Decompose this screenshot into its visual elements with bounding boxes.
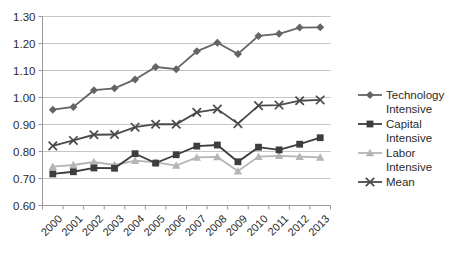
x-tick-label: 2009 xyxy=(224,212,250,238)
data-point-marker-square xyxy=(49,171,56,178)
legend-label-line2: Intensive xyxy=(386,161,432,173)
data-series-group xyxy=(49,23,325,177)
data-point-marker-square xyxy=(70,168,77,175)
y-tick-label: 0.70 xyxy=(13,173,35,185)
x-tick-label: 2005 xyxy=(141,212,167,238)
x-tick-label: 2011 xyxy=(265,212,290,237)
y-tick-label: 0.60 xyxy=(13,200,35,212)
data-point-marker-square xyxy=(193,143,200,150)
legend-label: Capital xyxy=(386,118,422,130)
legend-label: Technology xyxy=(386,89,444,101)
data-point-marker-diamond xyxy=(366,91,374,99)
y-tick-marks-group xyxy=(39,17,43,206)
y-tick-label: 0.90 xyxy=(13,119,35,131)
data-point-marker-diamond xyxy=(213,39,221,47)
data-point-marker-square xyxy=(367,121,374,128)
y-axis-tick-labels: 1.301.201.101.000.900.800.700.60 xyxy=(13,11,35,212)
x-tick-label: 2000 xyxy=(38,212,64,238)
data-point-marker-square xyxy=(132,150,139,157)
data-point-marker-square xyxy=(255,144,262,151)
data-point-marker-square xyxy=(235,158,242,165)
legend-label-line2: Intensive xyxy=(386,132,432,144)
legend-item-capital-intensive[interactable]: CapitalIntensive xyxy=(358,118,432,144)
data-point-marker-diamond xyxy=(296,24,304,32)
y-tick-label: 1.00 xyxy=(13,92,35,104)
x-tick-label: 2006 xyxy=(162,212,188,238)
legend-label: Mean xyxy=(386,176,415,188)
series-mean xyxy=(49,96,325,150)
chart-legend: TechnologyIntensiveCapitalIntensiveLabor… xyxy=(358,89,444,188)
x-tick-label: 2001 xyxy=(59,212,85,238)
series-technology-intensive xyxy=(49,23,324,113)
x-tick-label: 2012 xyxy=(285,212,311,238)
data-point-marker-diamond xyxy=(275,30,283,38)
data-point-marker-diamond xyxy=(316,23,324,31)
x-tick-label: 2013 xyxy=(306,212,332,238)
x-tick-label: 2002 xyxy=(80,212,106,238)
y-tick-label: 1.30 xyxy=(13,11,35,23)
data-point-marker-diamond xyxy=(111,84,119,92)
legend-item-mean[interactable]: Mean xyxy=(358,176,415,188)
data-point-marker-diamond xyxy=(49,106,57,114)
x-tick-label: 2004 xyxy=(121,212,147,238)
legend-label-line2: Intensive xyxy=(386,103,432,115)
data-point-marker-diamond xyxy=(152,63,160,71)
y-tick-label: 1.20 xyxy=(13,38,35,50)
data-point-marker-square xyxy=(317,134,324,141)
y-tick-label: 0.80 xyxy=(13,146,35,158)
x-tick-marks-group xyxy=(43,206,331,210)
series-labor-intensive xyxy=(49,152,325,175)
data-point-marker-square xyxy=(296,141,303,148)
x-tick-label: 2008 xyxy=(203,212,229,238)
y-tick-label: 1.10 xyxy=(13,65,35,77)
data-point-marker-square xyxy=(173,151,180,158)
data-point-marker-square xyxy=(111,165,118,172)
x-tick-label: 2003 xyxy=(100,212,126,238)
data-point-marker-diamond xyxy=(131,75,139,83)
legend-item-labor-intensive[interactable]: LaborIntensive xyxy=(358,147,432,173)
data-point-marker-square xyxy=(276,146,283,153)
chart-canvas: 1.301.201.101.000.900.800.700.60 2000200… xyxy=(0,0,453,257)
line-chart: 1.301.201.101.000.900.800.700.60 2000200… xyxy=(0,0,453,257)
data-point-marker-square xyxy=(152,160,159,167)
x-axis-tick-labels: 2000200120022003200420052006200720082009… xyxy=(38,212,331,238)
x-tick-label: 2010 xyxy=(244,212,270,238)
data-point-marker-x xyxy=(234,119,242,127)
x-tick-label: 2007 xyxy=(182,212,208,238)
data-point-marker-square xyxy=(214,142,221,149)
legend-item-technology-intensive[interactable]: TechnologyIntensive xyxy=(358,89,444,115)
legend-label: Labor xyxy=(386,147,416,159)
data-point-marker-square xyxy=(91,165,98,172)
